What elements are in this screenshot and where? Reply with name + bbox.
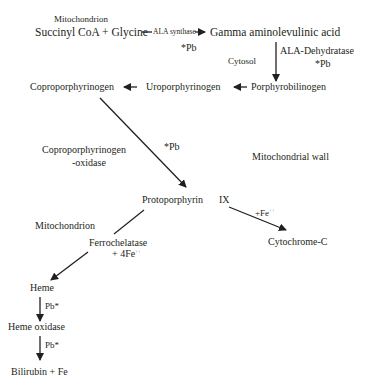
- cofactor-4fe-text: + 4Fe: [112, 248, 135, 259]
- cofactor-fe: +Fe++: [255, 208, 275, 218]
- enzyme-coproporphyrinogen-oxidase-line2: -oxidase: [72, 158, 106, 168]
- pb-inhibits-heme: Pb*: [45, 302, 59, 311]
- enzyme-ala-synthase: ALA synthase: [153, 28, 196, 36]
- compartment-mitochondrion-top: Mitochondrion: [54, 15, 108, 24]
- line-protoporphyrin-to-ferrochelatase: [114, 210, 144, 234]
- enzyme-coproporphyrinogen-oxidase-line1: Coproporphyrinogen: [42, 145, 126, 155]
- node-cytochrome-c: Cytochrome-C: [268, 237, 327, 247]
- arrow-ferrochelatase-to-heme: [51, 252, 88, 280]
- cofactor-4fe: + 4Fe++: [112, 249, 141, 259]
- node-uroporphyrinogen: Uroporphyrinogen: [146, 82, 220, 92]
- pb-inhibits-ala-dehydratase: *Pb: [315, 59, 331, 69]
- node-succinyl-coa-glycine: Succinyl CoA + Glycine: [35, 27, 148, 39]
- cofactor-4fe-charge: ++: [135, 249, 141, 254]
- compartment-cytosol: Cytosol: [228, 57, 256, 66]
- compartment-mitochondrion-bottom: Mitochondrion: [35, 221, 95, 231]
- pb-inhibits-copro-oxidase: *Pb: [164, 142, 180, 152]
- node-protoporphyrin-ix: IX: [219, 195, 230, 205]
- node-gamma-aminolevulinic-acid: Gamma aminolevulinic acid: [210, 27, 340, 39]
- node-heme-oxidase: Heme oxidase: [8, 322, 65, 332]
- cofactor-fe-charge: ++: [269, 208, 275, 213]
- pb-inhibits-ala-synthase: *Pb: [181, 43, 197, 53]
- pb-inhibits-heme-oxidase: Pb*: [45, 341, 59, 350]
- node-protoporphyrin: Protoporphyrin: [142, 195, 203, 205]
- node-coproporphyrinogen: Coproporphyrinogen: [30, 82, 114, 92]
- enzyme-ala-dehydratase: ALA-Dehydratase: [280, 46, 354, 56]
- compartment-mitochondrial-wall: Mitochondrial wall: [252, 152, 329, 162]
- enzyme-ferrochelatase: Ferrochelatase: [89, 238, 147, 248]
- node-bilirubin-fe: Bilirubin + Fe: [11, 367, 68, 377]
- cofactor-fe-text: +Fe: [255, 208, 269, 218]
- node-heme: Heme: [30, 283, 54, 293]
- node-porphobilinogen: Porphyrobilinogen: [251, 82, 326, 92]
